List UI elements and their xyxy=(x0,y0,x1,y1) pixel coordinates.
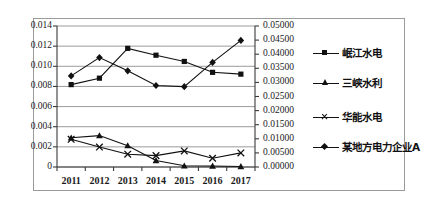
right-axis-tick-label: 0.00000 xyxy=(263,162,294,172)
left-axis-tick-label: 0.010 xyxy=(8,61,52,71)
left-axis-tick-label: 0.004 xyxy=(8,122,52,132)
right-axis-tick-label: 0.03000 xyxy=(263,77,294,87)
data-point-square xyxy=(210,70,215,75)
legend-item-3[interactable]: 华能水电 xyxy=(313,112,382,123)
x-axis-tick-label: 2017 xyxy=(223,176,259,186)
legend-item-1[interactable]: 岷江水电 xyxy=(313,48,382,59)
legend-marker-diamond-icon xyxy=(313,142,339,153)
data-point-diamond xyxy=(68,72,75,79)
legend-marker-x-icon xyxy=(313,112,339,123)
left-axis-tick-label: 0.014 xyxy=(8,21,52,31)
legend-label: 某地方电力企业A xyxy=(342,142,420,153)
left-axis-tick-label: 0 xyxy=(8,162,52,172)
legend-label: 岷江水电 xyxy=(342,48,382,59)
right-axis-tick-label: 0.03500 xyxy=(263,63,294,73)
right-axis-tick-label: 0.04500 xyxy=(263,35,294,45)
series-4 xyxy=(68,37,244,90)
right-axis-tick-label: 0.01500 xyxy=(263,120,294,130)
data-point-diamond xyxy=(238,37,245,44)
legend-item-2[interactable]: 三峡水利 xyxy=(313,78,382,89)
right-axis-tick-label: 0.02000 xyxy=(263,106,294,116)
data-point-diamond xyxy=(153,82,160,89)
data-point-square xyxy=(182,59,187,64)
series-line xyxy=(71,40,241,86)
right-axis-tick-label: 0.05000 xyxy=(263,21,294,31)
series-2 xyxy=(68,132,245,169)
data-point-square xyxy=(125,46,130,51)
left-axis-tick-label: 0.006 xyxy=(8,102,52,112)
legend-label: 三峡水利 xyxy=(342,78,382,89)
data-point-square xyxy=(238,72,243,77)
data-point-diamond xyxy=(96,54,103,61)
left-axis-tick-label: 0.012 xyxy=(8,41,52,51)
left-axis-tick-label: 0.002 xyxy=(8,142,52,152)
right-axis-tick-label: 0.02500 xyxy=(263,92,294,102)
data-point-square xyxy=(69,82,74,87)
right-axis-tick-label: 0.04000 xyxy=(263,49,294,59)
right-axis-tick-label: 0.01000 xyxy=(263,134,294,144)
right-axis-tick-label: 0.00500 xyxy=(263,148,294,158)
legend-marker-triangle-icon xyxy=(313,78,339,89)
legend-item-4[interactable]: 某地方电力企业A xyxy=(313,142,420,153)
legend-marker-square-icon xyxy=(313,48,339,59)
legend-label: 华能水电 xyxy=(342,112,382,123)
data-point-square xyxy=(153,53,158,58)
data-point-square xyxy=(97,76,102,81)
data-point-diamond xyxy=(124,67,131,74)
left-axis-tick-label: 0.008 xyxy=(8,81,52,91)
